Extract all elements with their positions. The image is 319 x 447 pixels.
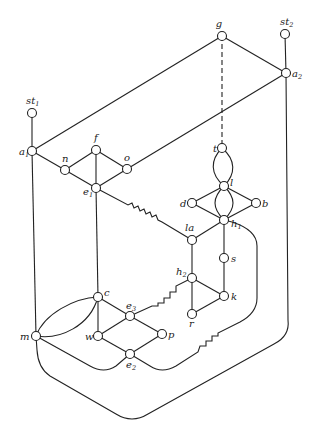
node-label-subscript: 1 — [237, 223, 241, 231]
node-label-subscript: 2 — [288, 21, 293, 29]
node-t — [218, 144, 227, 153]
edge-l-b — [224, 186, 256, 203]
node-label-subscript: 2 — [297, 73, 302, 81]
edge-o-e1 — [96, 169, 127, 188]
node-label-subscript: 1 — [89, 191, 93, 199]
node-k — [220, 292, 229, 301]
edge-w-e2 — [98, 336, 130, 354]
node-label-a2: a2 — [292, 68, 302, 81]
edge-e3-p — [130, 316, 162, 334]
graph-diagram: gst2a2st1a1fnoe1tldbh1lash2krce3wpe2m — [0, 0, 319, 447]
edge-n-e1 — [65, 170, 96, 188]
edge-h1-la — [192, 220, 224, 240]
node-label-subscript: 1 — [25, 151, 29, 159]
node-s — [220, 254, 229, 263]
node-label-st1: st1 — [26, 95, 39, 108]
edge-a1-n — [32, 151, 65, 170]
edge-l-h1-left-arc — [215, 186, 224, 220]
node-g — [218, 32, 227, 41]
node-a2 — [282, 69, 291, 78]
node-o — [123, 165, 132, 174]
node-label-m: m — [20, 331, 29, 342]
edge-h2-e3-zigzag — [130, 278, 192, 316]
edge-l-d — [192, 186, 224, 203]
node-label-subscript: 2 — [131, 364, 136, 372]
node-st2 — [281, 30, 290, 39]
node-l — [220, 182, 229, 191]
node-la — [188, 236, 197, 245]
node-label-g: g — [216, 18, 222, 29]
node-label-r: r — [189, 318, 195, 329]
edge-a2-m-outer-curve — [36, 73, 288, 419]
edge-h2-k — [192, 278, 224, 296]
edge-p-e2 — [130, 334, 162, 354]
node-label-l: l — [230, 177, 233, 188]
node-label-subscript: 2 — [181, 271, 186, 279]
edge-st2-a2 — [285, 34, 286, 73]
node-label-k: k — [231, 291, 237, 302]
edge-a1-m — [32, 151, 36, 336]
edge-a2-o — [127, 73, 286, 169]
node-label-h2: h2 — [176, 266, 187, 279]
node-p — [158, 330, 167, 339]
node-d — [188, 199, 197, 208]
edge-e1-la-zigzag — [96, 188, 192, 240]
edge-d-h1 — [192, 203, 224, 220]
node-label-s: s — [231, 253, 236, 264]
node-label-subscript: 1 — [35, 100, 39, 108]
node-m — [32, 332, 41, 341]
edge-r-k — [192, 296, 224, 314]
node-c — [94, 293, 103, 302]
node-label-n: n — [62, 153, 68, 164]
node-st1 — [28, 109, 37, 118]
node-label-f: f — [93, 132, 100, 143]
edge-l-h1-right-arc — [224, 186, 233, 220]
edge-e3-w — [98, 316, 130, 336]
edge-b-h1 — [224, 203, 256, 220]
node-label-b: b — [262, 198, 268, 209]
node-b — [252, 199, 261, 208]
edge-n-f — [65, 150, 96, 170]
node-n — [61, 166, 70, 175]
node-label-o: o — [124, 152, 130, 163]
node-label-p: p — [168, 329, 175, 340]
edge-a1-g — [32, 36, 222, 151]
edge-e1-c — [96, 188, 98, 297]
graph-edges: gst2a2st1a1fnoe1tldbh1lash2krce3wpe2m — [0, 0, 319, 447]
node-w — [94, 332, 103, 341]
node-f — [92, 146, 101, 155]
node-label-d: d — [180, 198, 186, 209]
node-label-e3: e3 — [126, 300, 136, 313]
node-h1 — [220, 216, 229, 225]
node-label-h1: h1 — [231, 218, 242, 231]
edge-m-e2-curve — [36, 336, 130, 370]
edge-g-a2 — [222, 36, 286, 73]
node-label-subscript: 3 — [132, 305, 136, 313]
node-label-w: w — [85, 331, 94, 342]
node-label-st2: st2 — [280, 16, 293, 29]
edge-f-o — [96, 150, 127, 169]
node-h2 — [188, 274, 197, 283]
node-label-a1: a1 — [19, 146, 29, 159]
node-e2 — [126, 350, 135, 359]
node-label-c: c — [104, 287, 110, 298]
node-label-e2: e2 — [126, 359, 136, 372]
node-label-la: la — [185, 222, 194, 233]
